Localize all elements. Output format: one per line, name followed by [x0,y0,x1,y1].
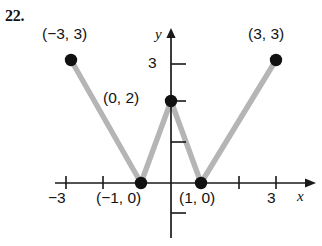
x-axis-label: x [297,189,304,204]
y-tick-label-pos3: 3 [148,55,157,71]
data-point-1-0 [195,177,207,189]
x-axis-arrow [305,178,316,187]
exercise-figure: 22. (−3, 3) (3, 3) (0, 2) (−1, 0) (1, 0)… [0,0,322,246]
point-label-1-0: (1, 0) [179,190,215,206]
point-label-0-2: (0, 2) [103,90,139,106]
data-point-neg1-0 [135,177,147,189]
graph-line [71,60,276,183]
y-axis-label: y [155,27,162,42]
point-label-neg1-0: (−1, 0) [96,190,141,206]
data-point-0-2 [165,95,177,107]
x-tick-label-pos3: 3 [267,190,276,206]
data-point-neg3-3 [65,54,77,66]
data-point-3-3 [270,54,282,66]
point-label-3-3: (3, 3) [248,26,284,42]
y-axis-arrow [166,28,175,38]
point-label-neg3-3: (−3, 3) [42,26,87,42]
x-tick-label-neg3: −3 [48,190,66,206]
